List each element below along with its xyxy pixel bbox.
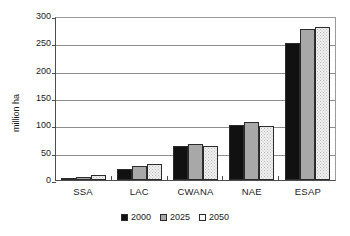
legend-label: 2025 [170, 213, 190, 222]
y-axis-tick-labels: 300250200150100500 [25, 17, 51, 181]
bar [76, 177, 91, 180]
bar [147, 164, 162, 180]
y-axis-tick-label: 200 [36, 67, 51, 76]
bar [173, 146, 188, 180]
legend-item[interactable]: 2025 [160, 213, 190, 222]
bar [244, 122, 259, 180]
bar-group [56, 18, 112, 180]
legend-swatch [199, 214, 206, 221]
x-axis-tick-labels: SSALACCWANANAEESAP [55, 186, 336, 200]
bar [132, 166, 147, 180]
y-axis-tick-label: 250 [36, 39, 51, 48]
bar [61, 178, 76, 180]
bar-chart: million ha 300250200150100500 SSALACCWAN… [0, 0, 350, 236]
bar [188, 144, 203, 180]
x-axis-tick-label: SSA [55, 186, 111, 200]
y-axis-tick-label: 150 [36, 94, 51, 103]
x-axis-tick-label: CWANA [167, 186, 223, 200]
bar [203, 146, 218, 180]
bar-groups [56, 18, 335, 180]
y-axis-tick-label: 100 [36, 121, 51, 130]
bar [259, 126, 274, 180]
bar-group [112, 18, 168, 180]
chart-legend: 200020252050 [0, 213, 350, 222]
bar [117, 169, 132, 180]
y-axis-tick-label: 300 [36, 12, 51, 21]
bar [91, 175, 106, 180]
legend-item[interactable]: 2050 [199, 213, 229, 222]
y-axis-tick-label: 0 [46, 176, 51, 185]
bar [229, 125, 244, 180]
y-axis-tick-label: 50 [41, 149, 51, 158]
legend-label: 2050 [209, 213, 229, 222]
legend-label: 2000 [131, 213, 151, 222]
bar [285, 43, 300, 180]
y-axis-title: million ha [12, 94, 21, 132]
bar [300, 29, 315, 180]
x-axis-tick-label: LAC [111, 186, 167, 200]
bar [315, 27, 330, 180]
bar-group [279, 18, 335, 180]
bar-group [168, 18, 224, 180]
plot-area [55, 17, 336, 181]
legend-swatch [121, 214, 128, 221]
bar-group [223, 18, 279, 180]
y-axis-tick [52, 182, 56, 183]
legend-swatch [160, 214, 167, 221]
legend-item[interactable]: 2000 [121, 213, 151, 222]
x-axis-tick-label: ESAP [280, 186, 336, 200]
x-axis-tick-label: NAE [224, 186, 280, 200]
